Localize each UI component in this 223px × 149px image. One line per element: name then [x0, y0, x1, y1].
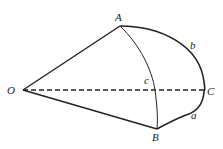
- label-B: B: [152, 131, 159, 143]
- label-A: A: [114, 11, 122, 23]
- label-arc-c: c: [144, 74, 149, 86]
- arc-c: [120, 26, 157, 129]
- segment-OB: [23, 90, 157, 129]
- label-O: O: [7, 84, 15, 96]
- label-arc-b: b: [190, 39, 196, 51]
- arc-b: [120, 26, 205, 92]
- label-arc-a: a: [191, 109, 197, 121]
- label-C: C: [207, 85, 215, 97]
- segment-OA: [23, 26, 120, 90]
- spherical-triangle-diagram: O A B C b c a: [0, 0, 223, 149]
- diagram-canvas: O A B C b c a: [0, 0, 223, 149]
- arc-a: [157, 92, 204, 129]
